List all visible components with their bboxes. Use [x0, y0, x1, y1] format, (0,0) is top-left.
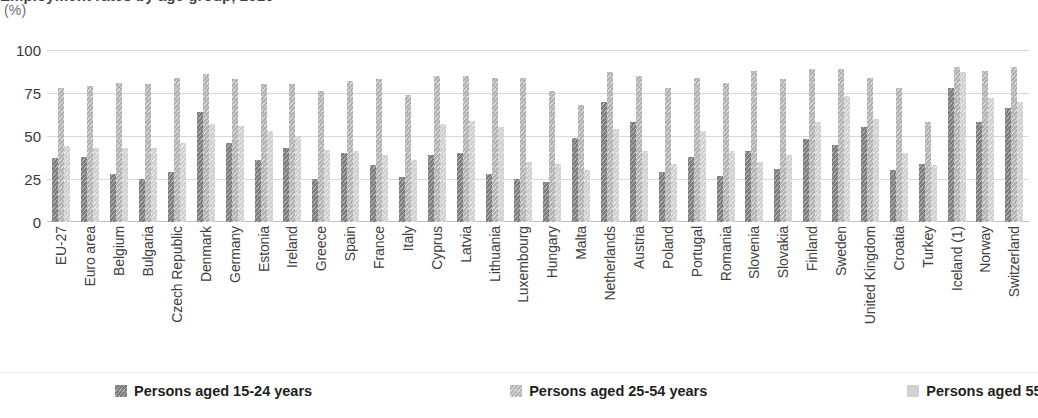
bar[interactable] — [382, 155, 388, 222]
legend-label: Persons aged 15-24 years — [134, 383, 312, 399]
category-label-text: Slovenia — [746, 226, 762, 279]
x-axis-label-sweden: Sweden — [827, 224, 856, 364]
bar-group[interactable] — [451, 50, 480, 222]
x-axis-label-slovakia: Slovakia — [769, 224, 798, 364]
bar[interactable] — [238, 126, 244, 222]
x-axis-label-latvia: Latvia — [451, 224, 480, 364]
bar[interactable] — [295, 136, 301, 222]
bar-group[interactable] — [278, 50, 307, 222]
category-label-text: Turkey — [920, 226, 936, 268]
bar[interactable] — [1017, 102, 1023, 222]
bar[interactable] — [671, 164, 677, 222]
bar-group[interactable] — [740, 50, 769, 222]
bar[interactable] — [815, 122, 821, 222]
x-axis-label-germany: Germany — [220, 224, 249, 364]
bar[interactable] — [353, 151, 359, 222]
bar-group[interactable] — [422, 50, 451, 222]
bar[interactable] — [700, 131, 706, 222]
category-label-text: Finland — [804, 226, 820, 271]
bar[interactable] — [440, 124, 446, 222]
bar-group[interactable] — [769, 50, 798, 222]
bar[interactable] — [786, 155, 792, 222]
bar[interactable] — [844, 96, 850, 222]
bar-group[interactable] — [509, 50, 538, 222]
x-axis-label-turkey: Turkey — [913, 224, 942, 364]
bar[interactable] — [902, 153, 908, 222]
bar[interactable] — [988, 98, 994, 222]
x-axis-label-iceland-1: Iceland (1) — [942, 224, 971, 364]
legend-label: Persons aged 55-64 years — [926, 383, 1038, 399]
bar-group[interactable] — [884, 50, 913, 222]
bar[interactable] — [526, 162, 532, 222]
category-label-text: Croatia — [891, 226, 907, 270]
bar[interactable] — [584, 170, 590, 222]
legend-swatch-icon — [115, 385, 127, 397]
y-tick-100: 100 — [16, 42, 41, 59]
category-label-text: Luxembourg — [515, 226, 531, 303]
bar-group[interactable] — [942, 50, 971, 222]
category-label-text: Sweden — [833, 226, 849, 276]
bar-group[interactable] — [163, 50, 192, 222]
bar[interactable] — [411, 160, 417, 222]
bar-group[interactable] — [798, 50, 827, 222]
bar[interactable] — [151, 148, 157, 222]
bar[interactable] — [324, 150, 330, 222]
bar-group[interactable] — [567, 50, 596, 222]
legend-item-2[interactable]: Persons aged 25-54 years — [510, 383, 707, 399]
bar-group[interactable] — [625, 50, 654, 222]
bar-group[interactable] — [220, 50, 249, 222]
bar[interactable] — [180, 143, 186, 222]
bar-group[interactable] — [653, 50, 682, 222]
y-tick-25: 25 — [24, 171, 41, 188]
bar-group[interactable] — [365, 50, 394, 222]
bar[interactable] — [613, 129, 619, 222]
bar[interactable] — [93, 148, 99, 222]
bar-group[interactable] — [596, 50, 625, 222]
bar[interactable] — [498, 127, 504, 222]
bar-group[interactable] — [711, 50, 740, 222]
y-axis-unit-label: (%) — [4, 2, 26, 18]
bar[interactable] — [122, 148, 128, 222]
legend-item-3[interactable]: Persons aged 55-64 years — [907, 383, 1038, 399]
bar[interactable] — [469, 121, 475, 222]
bar-group[interactable] — [134, 50, 163, 222]
bar-group[interactable] — [827, 50, 856, 222]
bar-group[interactable] — [105, 50, 134, 222]
category-label-text: Norway — [977, 226, 993, 273]
bar-group[interactable] — [856, 50, 885, 222]
bar[interactable] — [757, 162, 763, 222]
bar-group[interactable] — [394, 50, 423, 222]
category-label-text: Belgium — [111, 226, 127, 276]
bar-group[interactable] — [538, 50, 567, 222]
category-label-text: Portugal — [689, 226, 705, 277]
bar[interactable] — [209, 124, 215, 222]
bar-group[interactable] — [1000, 50, 1029, 222]
bar[interactable] — [555, 164, 561, 222]
x-axis-label-denmark: Denmark — [191, 224, 220, 364]
bar-group[interactable] — [480, 50, 509, 222]
bar-group[interactable] — [336, 50, 365, 222]
x-axis-label-spain: Spain — [336, 224, 365, 364]
bar-group[interactable] — [913, 50, 942, 222]
y-axis-tick-labels: 0255075100 — [0, 50, 41, 222]
x-axis-label-slovenia: Slovenia — [740, 224, 769, 364]
bar[interactable] — [931, 165, 937, 222]
bar-group[interactable] — [76, 50, 105, 222]
category-label-text: EU-27 — [53, 226, 69, 265]
legend-swatch-icon — [510, 385, 522, 397]
bar[interactable] — [729, 151, 735, 222]
bar-group[interactable] — [249, 50, 278, 222]
bar-group[interactable] — [47, 50, 76, 222]
x-axis-label-malta: Malta — [567, 224, 596, 364]
bar-group[interactable] — [191, 50, 220, 222]
bar-group[interactable] — [682, 50, 711, 222]
bar-group[interactable] — [971, 50, 1000, 222]
bar[interactable] — [642, 151, 648, 222]
bar[interactable] — [64, 146, 70, 222]
bar[interactable] — [960, 72, 966, 222]
bar-group[interactable] — [307, 50, 336, 222]
bar[interactable] — [873, 119, 879, 222]
x-axis-label-netherlands: Netherlands — [596, 224, 625, 364]
bar[interactable] — [267, 131, 273, 222]
legend-item-1[interactable]: Persons aged 15-24 years — [115, 383, 312, 399]
